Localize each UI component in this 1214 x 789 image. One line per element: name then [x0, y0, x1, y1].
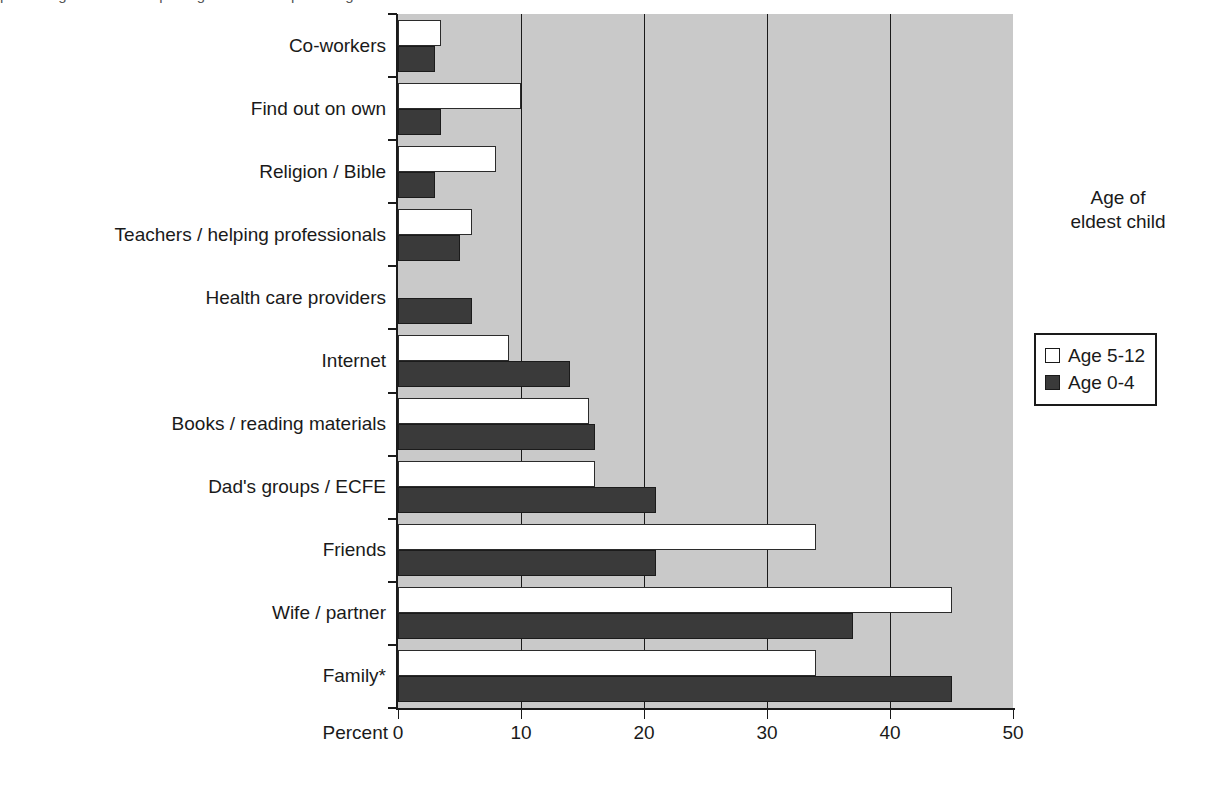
bar-age-5-12 [398, 209, 472, 235]
y-axis-tick [388, 328, 397, 330]
y-axis-tick [388, 265, 397, 267]
category-label: Friends [6, 539, 386, 561]
bar-age-0-4 [398, 172, 435, 198]
category-label: Religion / Bible [6, 161, 386, 183]
bar-age-0-4 [398, 109, 441, 135]
x-axis-tick [521, 710, 522, 719]
x-axis-tick-label: 20 [614, 722, 674, 744]
category-label: Find out on own [6, 98, 386, 120]
legend-swatch-filled-square-icon [1045, 375, 1060, 390]
category-label: Dad's groups / ECFE [6, 476, 386, 498]
bar-age-0-4 [398, 487, 656, 513]
bar-age-0-4 [398, 676, 952, 702]
category-label: Family* [6, 665, 386, 687]
y-axis-tick [388, 139, 397, 141]
x-axis-tick [398, 710, 399, 719]
bar-age-5-12 [398, 146, 496, 172]
bar-age-0-4 [398, 235, 460, 261]
x-axis-tick [1013, 710, 1014, 719]
x-axis-tick-label: 30 [737, 722, 797, 744]
y-axis-tick [388, 707, 397, 709]
bar-age-5-12 [398, 587, 952, 613]
bar-age-5-12 [398, 83, 521, 109]
category-label: Health care providers [6, 287, 386, 309]
y-axis-tick [388, 202, 397, 204]
legend-swatch-open-square-icon [1045, 348, 1060, 363]
bar-age-5-12 [398, 650, 816, 676]
bar-age-0-4 [398, 298, 472, 324]
y-axis-tick [388, 518, 397, 520]
legend-box: Age 5-12 Age 0-4 [1034, 333, 1157, 406]
category-label: Books / reading materials [6, 413, 386, 435]
y-axis-tick [388, 392, 397, 394]
bar-age-5-12 [398, 20, 441, 46]
y-axis-tick [388, 644, 397, 646]
y-axis-tick [388, 13, 397, 15]
bar-age-0-4 [398, 613, 853, 639]
horizontal-bar-chart: 01020304050 Co-workersFind out on ownRel… [0, 0, 1214, 789]
y-axis-tick [388, 76, 397, 78]
legend-label: Age 5-12 [1068, 345, 1145, 367]
category-label: Teachers / helping professionals [6, 224, 386, 246]
bar-age-0-4 [398, 361, 570, 387]
y-axis-tick [388, 455, 397, 457]
x-axis-tick [890, 710, 891, 719]
value-axis-spine [396, 708, 1015, 710]
bar-age-5-12 [398, 335, 509, 361]
x-axis-tick [767, 710, 768, 719]
bar-age-0-4 [398, 46, 435, 72]
category-label: Wife / partner [6, 602, 386, 624]
bar-age-5-12 [398, 524, 816, 550]
legend-title: Age of eldest child [1030, 186, 1206, 234]
bar-age-5-12 [398, 461, 595, 487]
legend-title-line-1: Age of [1030, 186, 1206, 210]
legend-item-age-5-12[interactable]: Age 5-12 [1045, 342, 1145, 369]
x-axis-tick-label: 50 [983, 722, 1043, 744]
bar-age-5-12 [398, 398, 589, 424]
category-label: Internet [6, 350, 386, 372]
category-label: Co-workers [6, 35, 386, 57]
y-axis-tick [388, 581, 397, 583]
legend-label: Age 0-4 [1068, 372, 1135, 394]
x-axis-tick-label: 10 [491, 722, 551, 744]
bar-age-0-4 [398, 424, 595, 450]
legend-item-age-0-4[interactable]: Age 0-4 [1045, 369, 1145, 396]
x-axis-tick-label: 40 [860, 722, 920, 744]
bar-age-0-4 [398, 550, 656, 576]
x-axis-title: Percent [296, 722, 388, 744]
x-axis-tick [644, 710, 645, 719]
legend-title-line-2: eldest child [1030, 210, 1206, 234]
